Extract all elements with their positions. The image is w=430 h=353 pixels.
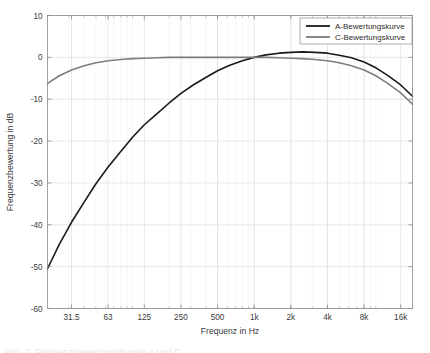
ytick-label: 10: [33, 12, 43, 21]
legend-label-a: A-Bewertungskurve: [335, 22, 405, 31]
x-axis-title: Frequenz in Hz: [201, 326, 259, 336]
xtick-label: 125: [137, 313, 151, 322]
legend-label-c: C-Bewertungskurve: [335, 33, 406, 42]
xtick-label: 250: [174, 313, 188, 322]
xtick-label: 16k: [394, 313, 408, 322]
ytick-label: -60: [31, 305, 43, 314]
ytick-label: -20: [31, 137, 43, 146]
legend: A-BewertungskurveC-Bewertungskurve: [300, 18, 412, 44]
ytick-label: -40: [31, 221, 43, 230]
xtick-label: 8k: [360, 313, 370, 322]
xtick-label: 500: [211, 313, 225, 322]
xtick-label: 4k: [323, 313, 333, 322]
ytick-label: -50: [31, 263, 43, 272]
xtick-label: 31.5: [64, 313, 80, 322]
figure-caption: Abb. 2: Frequenzbewertungskurven A und C: [0, 342, 430, 353]
xtick-label: 1k: [250, 313, 260, 322]
figure-container: 31.5631252505001k2k4k8k16k100-10-20-30-4…: [0, 0, 430, 353]
xtick-label: 63: [104, 313, 114, 322]
ytick-label: -30: [31, 179, 43, 188]
y-axis-title: Frequenzbewertung in dB: [5, 113, 15, 212]
ytick-label: 0: [38, 53, 43, 62]
frequency-weighting-chart: 31.5631252505001k2k4k8k16k100-10-20-30-4…: [0, 0, 430, 353]
ytick-label: -10: [31, 95, 43, 104]
xtick-label: 2k: [287, 313, 297, 322]
